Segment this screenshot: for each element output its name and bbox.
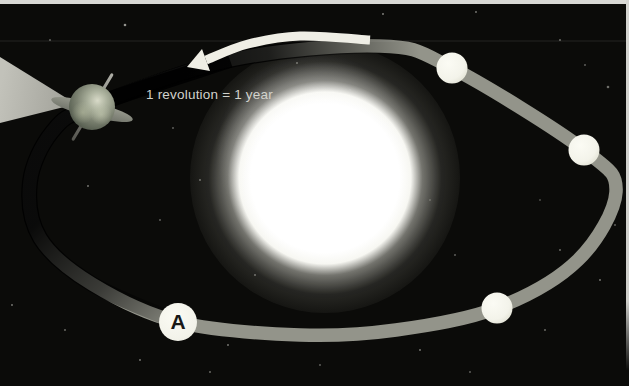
- moon-marker: [437, 53, 468, 84]
- star-dot: [475, 11, 477, 13]
- star-dot: [172, 127, 174, 129]
- orbit-diagram: 1 revolution = 1 year A: [0, 0, 629, 386]
- star-dot: [296, 62, 298, 64]
- earth-globe: [69, 84, 115, 130]
- star-dot: [139, 359, 141, 361]
- frame-top-edge: [0, 0, 629, 4]
- star-dot: [349, 89, 351, 91]
- star-dot: [11, 304, 13, 306]
- star-dot: [209, 371, 211, 373]
- star-dot: [87, 185, 89, 187]
- star-dot: [584, 64, 586, 66]
- moon-marker: [482, 293, 513, 324]
- earth: [66, 81, 118, 133]
- star-dot: [469, 371, 471, 373]
- star-dot: [254, 274, 256, 276]
- star-dot: [319, 364, 321, 366]
- star-dot: [227, 344, 229, 346]
- star-dot: [124, 24, 127, 27]
- star-dot: [419, 349, 421, 351]
- diagram-canvas: [0, 0, 629, 386]
- star-dot: [599, 279, 601, 281]
- moon-marker: [569, 135, 600, 166]
- star-dot: [607, 86, 610, 89]
- point-a-marker: A: [159, 303, 197, 341]
- star-dot: [429, 199, 431, 201]
- star-dot: [544, 329, 546, 331]
- star-dot: [614, 224, 616, 226]
- star-dot: [64, 329, 66, 331]
- star-dot: [539, 199, 541, 201]
- revolution-caption: 1 revolution = 1 year: [146, 87, 273, 102]
- star-dot: [559, 249, 561, 251]
- scanline-artifact: [0, 40, 629, 42]
- star-dot: [199, 179, 201, 181]
- star-dot: [454, 254, 456, 256]
- star-dot: [159, 219, 161, 221]
- star-dot: [382, 13, 384, 15]
